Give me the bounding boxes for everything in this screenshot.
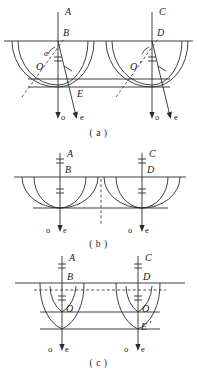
arc-left-outer-b xyxy=(22,177,60,208)
arc-left-right-inner-a xyxy=(58,41,88,85)
arc-right-outer-b xyxy=(104,177,142,208)
figure-panel-b: A B C D o e o e ( b ) xyxy=(0,145,197,255)
arrowhead-left-b xyxy=(57,225,62,232)
label-point-O-prime-a: O xyxy=(130,62,137,72)
label-point-E-prime-c: E xyxy=(141,322,147,332)
arc-right-inner-b xyxy=(116,177,142,208)
arrowhead-right-o-a xyxy=(149,112,154,119)
label-o-ray-right-a: o xyxy=(155,113,159,122)
label-e-ray-right-a: e xyxy=(174,113,178,122)
label-axis-C-b: C xyxy=(149,149,156,159)
label-point-B-a: B xyxy=(63,28,69,38)
arc-left-right-outer-b xyxy=(60,177,98,208)
panel-c-drawing xyxy=(0,250,197,372)
caption-panel-b: ( b ) xyxy=(0,239,197,249)
label-point-E-a: E xyxy=(77,89,83,99)
label-point-O-a: O xyxy=(36,62,43,72)
panel-a-drawing xyxy=(0,0,197,135)
label-e-ray-right-c: e xyxy=(141,345,145,354)
arc-left-right-inner-b xyxy=(60,177,86,208)
arrowhead-left-c xyxy=(59,344,64,351)
polarization-ticks-a xyxy=(54,57,166,71)
label-axis-A-c: A xyxy=(69,253,75,263)
label-point-O-prime-c: O xyxy=(142,304,149,314)
arc-right-right-inner-b xyxy=(142,177,168,208)
arrowhead-right-c xyxy=(135,344,140,351)
label-prime-mark-c: ' xyxy=(149,320,151,330)
label-o-ray-left-b: o xyxy=(46,226,50,235)
label-e-ray-right-b: e xyxy=(145,226,149,235)
label-o-ray-right-b: o xyxy=(128,226,132,235)
label-axis-A-b: A xyxy=(67,149,73,159)
label-point-O-c: O xyxy=(66,304,73,314)
caption-panel-c: ( c ) xyxy=(0,358,197,368)
label-point-B-c: B xyxy=(67,272,73,282)
label-e-ray-left-c: e xyxy=(65,345,69,354)
arrowhead-right-b xyxy=(139,225,144,232)
label-point-D-a: D xyxy=(157,28,164,38)
caption-panel-a: ( a ) xyxy=(0,128,197,138)
figure-panel-a: A B O α E C D O ' o e o e ( a ) xyxy=(0,0,197,150)
label-axis-A-a: A xyxy=(65,7,71,17)
label-angle-alpha-a: α xyxy=(44,50,48,58)
label-point-D-c: D xyxy=(143,272,150,282)
label-axis-C-a: C xyxy=(159,7,166,17)
panel-b-drawing xyxy=(0,145,197,253)
arrowhead-left-e-a xyxy=(73,112,78,119)
label-point-D-b: D xyxy=(147,165,154,175)
arc-right-outer-a xyxy=(106,41,152,87)
arc-right-right-outer-b xyxy=(142,177,180,208)
ray-arrowheads-c xyxy=(59,344,140,351)
label-o-ray-right-c: o xyxy=(124,345,128,354)
polarization-ticks-c xyxy=(58,264,142,300)
label-e-ray-left-a: e xyxy=(80,113,84,122)
arrowhead-right-e-a xyxy=(167,112,172,119)
label-o-ray-left-a: o xyxy=(61,113,65,122)
arc-right-right-inner-a xyxy=(152,41,182,85)
label-e-ray-left-b: e xyxy=(63,226,67,235)
arrowhead-left-o-a xyxy=(55,112,60,119)
label-point-B-b: B xyxy=(65,165,71,175)
label-o-ray-left-c: o xyxy=(48,345,52,354)
label-axis-C-c: C xyxy=(145,253,152,263)
arc-left-inner-b xyxy=(34,177,60,208)
figure-panel-c: A B O C D O E ' o e o e ( c ) xyxy=(0,250,197,375)
arc-left-outer-a xyxy=(12,41,58,87)
label-prime-mark-a: ' xyxy=(139,60,141,70)
